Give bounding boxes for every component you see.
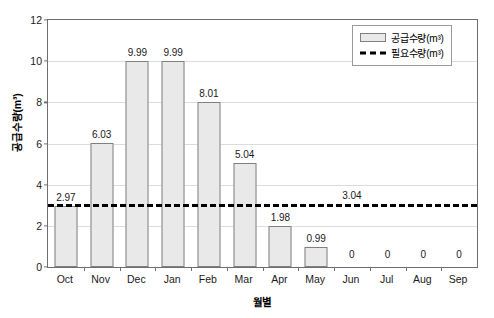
required-amount-line	[48, 204, 477, 207]
chart-legend: 공급수량(m³) 필요수량(m³)	[352, 25, 452, 66]
bar-slot: 1.98	[263, 20, 299, 267]
bar-value-label: 9.99	[163, 47, 182, 58]
bar[interactable]	[54, 206, 77, 267]
bar[interactable]	[269, 226, 292, 267]
legend-item-supply: 공급수량(m³)	[360, 30, 444, 45]
y-tick-label: 8	[36, 96, 42, 108]
required-amount-label: 3.04	[342, 190, 361, 201]
bar-value-label: 2.97	[56, 192, 75, 203]
x-tick-mark	[227, 267, 228, 271]
y-tick-label: 4	[36, 179, 42, 191]
x-tick-mark	[84, 267, 85, 271]
x-tick-mark	[334, 267, 335, 271]
bar-value-label: 9.99	[128, 47, 147, 58]
x-tick-mark	[263, 267, 264, 271]
bar-slot: 5.04	[227, 20, 263, 267]
legend-dashline-swatch-icon	[360, 48, 386, 57]
legend-item-required: 필요수량(m³)	[360, 45, 444, 60]
bar-value-label: 0	[385, 249, 391, 260]
bar[interactable]	[126, 61, 149, 267]
x-tick-mark	[120, 267, 121, 271]
legend-bar-swatch-icon	[360, 33, 386, 42]
y-tick-label: 10	[30, 55, 42, 67]
x-tick-label: Jul	[380, 273, 393, 285]
bar[interactable]	[305, 247, 328, 267]
x-tick-label: Feb	[199, 273, 217, 285]
bar[interactable]	[197, 102, 220, 267]
bar-value-label: 8.01	[199, 88, 218, 99]
x-tick-label: Nov	[91, 273, 110, 285]
x-tick-mark	[441, 267, 442, 271]
y-tick-label: 12	[30, 14, 42, 26]
x-tick-label: Sep	[449, 273, 468, 285]
bar-value-label: 0	[349, 249, 355, 260]
bar-value-label: 0	[456, 249, 462, 260]
x-tick-mark	[155, 267, 156, 271]
bar-value-label: 1.98	[271, 212, 290, 223]
x-tick-mark	[298, 267, 299, 271]
x-tick-label: Mar	[235, 273, 253, 285]
bar-slot: 9.99	[120, 20, 156, 267]
x-tick-label: Jan	[164, 273, 181, 285]
y-tick-label: 6	[36, 138, 42, 150]
x-axis-title: 월별	[47, 294, 478, 309]
legend-label-supply: 공급수량(m³)	[391, 30, 444, 45]
bar-slot: 8.01	[191, 20, 227, 267]
bar-value-label: 5.04	[235, 149, 254, 160]
chart-figure: 공급수량(m³) 024681012 2.976.039.999.998.015…	[0, 0, 494, 318]
x-tick-label: Apr	[271, 273, 287, 285]
x-tick-mark	[191, 267, 192, 271]
bar-slot: 6.03	[84, 20, 120, 267]
bar-slot: 0.99	[298, 20, 334, 267]
x-tick-mark	[406, 267, 407, 271]
bar-slot: 9.99	[155, 20, 191, 267]
x-tick-label: Dec	[127, 273, 146, 285]
legend-label-required: 필요수량(m³)	[391, 45, 444, 60]
y-axis-title: 공급수량(m³)	[9, 68, 24, 178]
x-tick-label: Aug	[413, 273, 432, 285]
bar[interactable]	[233, 163, 256, 267]
y-tick-label: 0	[36, 261, 42, 273]
x-tick-label: Jun	[342, 273, 359, 285]
bar-slot: 2.97	[48, 20, 84, 267]
x-tick-label: Oct	[57, 273, 73, 285]
y-tick-label: 2	[36, 220, 42, 232]
x-tick-mark	[370, 267, 371, 271]
bar[interactable]	[162, 61, 185, 267]
bar-value-label: 0.99	[306, 233, 325, 244]
x-tick-label: May	[305, 273, 325, 285]
bar-value-label: 6.03	[92, 129, 111, 140]
bar-value-label: 0	[421, 249, 427, 260]
